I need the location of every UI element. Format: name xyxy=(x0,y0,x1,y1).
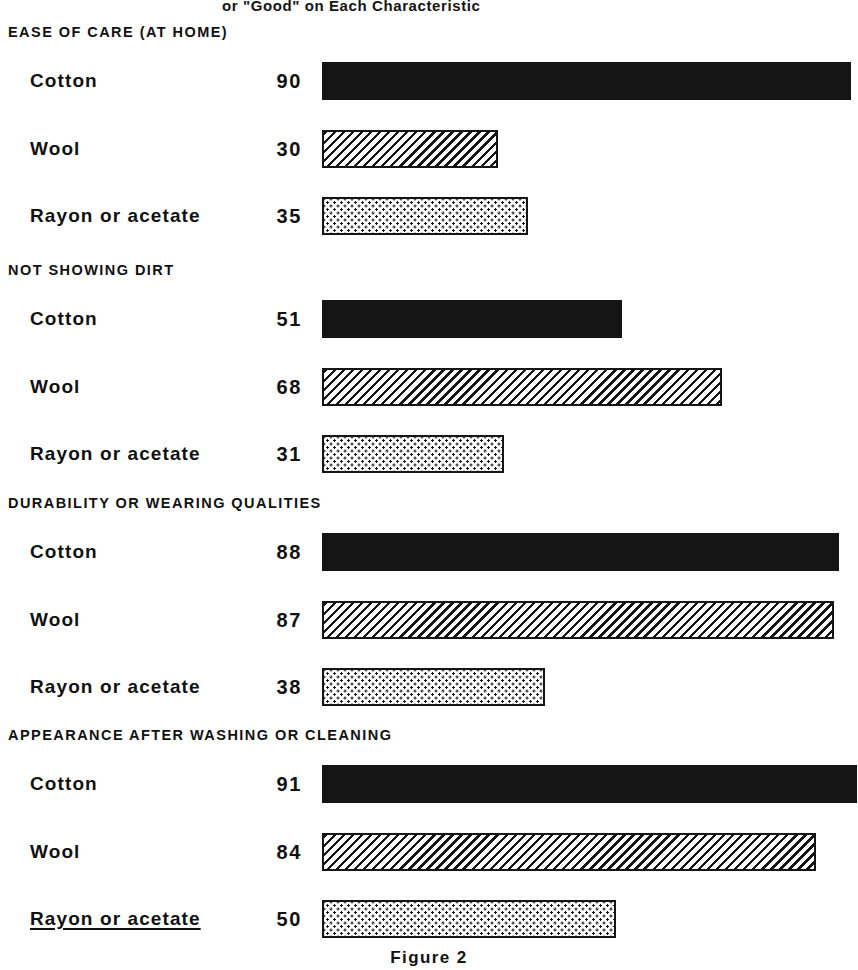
fabric-row: Wool30 xyxy=(0,129,858,169)
fabric-label: Rayon or acetate xyxy=(30,667,201,707)
fabric-label: Rayon or acetate xyxy=(30,899,201,939)
fabric-value: 38 xyxy=(232,667,302,707)
fabric-value: 31 xyxy=(232,434,302,474)
fabric-label: Cotton xyxy=(30,764,98,804)
fabric-row: Rayon or acetate38 xyxy=(0,667,858,707)
fabric-value: 91 xyxy=(232,764,302,804)
section-heading: DURABILITY OR WEARING QUALITIES xyxy=(8,495,322,511)
fabric-row: Cotton91 xyxy=(0,764,858,804)
fabric-row: Rayon or acetate35 xyxy=(0,196,858,236)
figure-root: or "Good" on Each Characteristic EASE OF… xyxy=(0,0,858,970)
value-bar xyxy=(322,668,545,706)
fabric-label: Wool xyxy=(30,832,80,872)
value-bar xyxy=(322,62,851,100)
fabric-row: Wool68 xyxy=(0,367,858,407)
fabric-value: 35 xyxy=(232,196,302,236)
fabric-value: 51 xyxy=(232,299,302,339)
fabric-value: 90 xyxy=(232,61,302,101)
fabric-row: Wool87 xyxy=(0,600,858,640)
value-bar xyxy=(322,900,616,938)
figure-caption: Figure 2 xyxy=(0,948,858,968)
value-bar xyxy=(322,300,622,338)
value-bar xyxy=(322,601,834,639)
value-bar xyxy=(322,833,816,871)
fabric-value: 88 xyxy=(232,532,302,572)
value-bar xyxy=(322,130,498,168)
fabric-label: Cotton xyxy=(30,299,98,339)
fabric-label: Rayon or acetate xyxy=(30,434,201,474)
fabric-value: 30 xyxy=(232,129,302,169)
fabric-row: Rayon or acetate50 xyxy=(0,899,858,939)
fabric-value: 84 xyxy=(232,832,302,872)
fabric-label: Cotton xyxy=(30,532,98,572)
value-bar xyxy=(322,533,839,571)
value-bar xyxy=(322,368,722,406)
fabric-label: Wool xyxy=(30,367,80,407)
fabric-label: Wool xyxy=(30,600,80,640)
fabric-row: Wool84 xyxy=(0,832,858,872)
value-bar xyxy=(322,197,528,235)
section-heading: EASE OF CARE (AT HOME) xyxy=(8,24,228,40)
fabric-label: Wool xyxy=(30,129,80,169)
fabric-row: Cotton51 xyxy=(0,299,858,339)
fabric-row: Rayon or acetate31 xyxy=(0,434,858,474)
value-bar xyxy=(322,765,857,803)
fabric-label: Cotton xyxy=(30,61,98,101)
section-heading: APPEARANCE AFTER WASHING OR CLEANING xyxy=(8,727,392,743)
value-bar xyxy=(322,435,504,473)
fabric-value: 50 xyxy=(232,899,302,939)
fabric-row: Cotton90 xyxy=(0,61,858,101)
fabric-label: Rayon or acetate xyxy=(30,196,201,236)
fabric-value: 68 xyxy=(232,367,302,407)
fabric-value: 87 xyxy=(232,600,302,640)
section-heading: NOT SHOWING DIRT xyxy=(8,262,175,278)
chart-title: or "Good" on Each Characteristic xyxy=(222,0,642,14)
fabric-row: Cotton88 xyxy=(0,532,858,572)
